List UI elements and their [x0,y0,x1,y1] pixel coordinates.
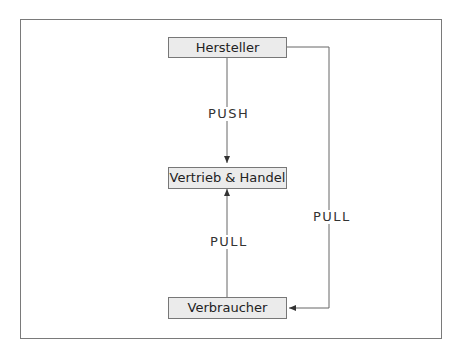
node-consumer: Verbraucher [168,297,287,319]
node-distribution: Vertrieb & Handel [168,167,287,189]
edge-label-push: PUSH [206,107,251,121]
edge-label-pull-left: PULL [208,235,250,249]
node-manufacturer: Hersteller [168,37,287,58]
edge-label-pull-right: PULL [311,210,353,224]
